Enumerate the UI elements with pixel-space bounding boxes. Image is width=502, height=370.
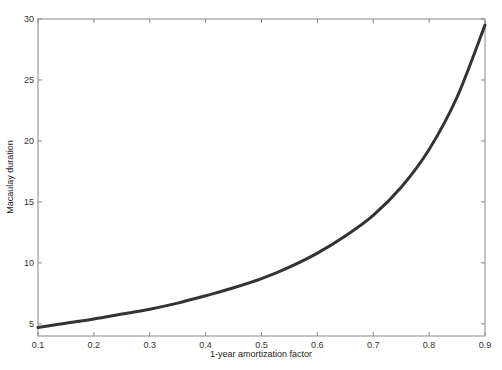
x-tick-label: 0.1 [32, 340, 45, 350]
line-chart: 0.10.20.30.40.50.60.70.80.9 51015202530 … [0, 0, 502, 370]
y-axis-tick-labels: 51015202530 [24, 14, 34, 329]
x-tick-label: 0.9 [479, 340, 492, 350]
y-tick-label: 15 [24, 197, 34, 207]
x-tick-label: 0.8 [423, 340, 436, 350]
y-tick-label: 20 [24, 136, 34, 146]
x-tick-label: 0.7 [367, 340, 380, 350]
y-tick-label: 5 [29, 319, 34, 329]
y-tick-label: 10 [24, 258, 34, 268]
y-tick-label: 30 [24, 14, 34, 24]
x-tick-label: 0.6 [311, 340, 324, 350]
y-tick-label: 25 [24, 75, 34, 85]
plot-area [38, 19, 485, 336]
x-tick-label: 0.3 [143, 340, 156, 350]
x-tick-label: 0.2 [88, 340, 101, 350]
y-axis-label: Macaulay duration [5, 140, 15, 214]
x-axis-label: 1-year amortization factor [210, 349, 312, 359]
